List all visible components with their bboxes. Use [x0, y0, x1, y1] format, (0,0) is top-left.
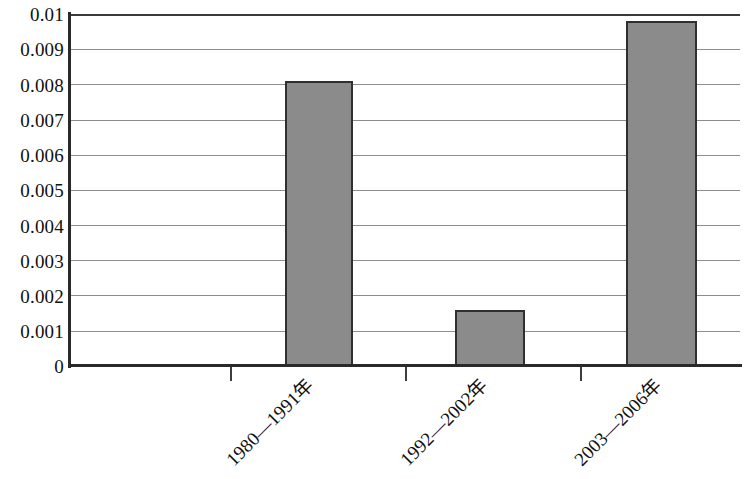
x-tick-label-2003-2006: 2003—2006年 [570, 374, 665, 469]
x-tick-mark [230, 367, 232, 381]
y-tick-label: 0.003 [0, 252, 64, 271]
y-tick-label: 0.01 [0, 5, 64, 24]
y-tick-label: 0.005 [0, 181, 64, 200]
y-tick-label: 0.001 [0, 322, 64, 341]
y-tick-label: 0.009 [0, 40, 64, 59]
y-tick-label: 0.004 [0, 217, 64, 236]
gridline [70, 14, 740, 16]
x-tick-label-1992-2002: 1992—2002年 [396, 374, 491, 469]
bar-1980-1991 [285, 81, 353, 366]
y-axis-labels: 0.01 0.009 0.008 0.007 0.006 0.005 0.004… [0, 0, 64, 479]
y-tick-label: 0.002 [0, 287, 64, 306]
y-tick-label: 0.006 [0, 146, 64, 165]
y-tick-label: 0.007 [0, 111, 64, 130]
x-tick-label-1980-1991: 1980—1991年 [222, 374, 317, 469]
plot-area [70, 14, 740, 366]
y-tick-label: 0.008 [0, 76, 64, 95]
bar-chart: 0.01 0.009 0.008 0.007 0.006 0.005 0.004… [0, 0, 744, 479]
bar-2003-2006 [626, 21, 697, 366]
bar-1992-2002 [455, 310, 525, 366]
y-axis-line [68, 12, 71, 368]
x-tick-mark [405, 367, 407, 381]
y-tick-label: 0 [0, 357, 64, 376]
x-tick-mark [580, 367, 582, 381]
